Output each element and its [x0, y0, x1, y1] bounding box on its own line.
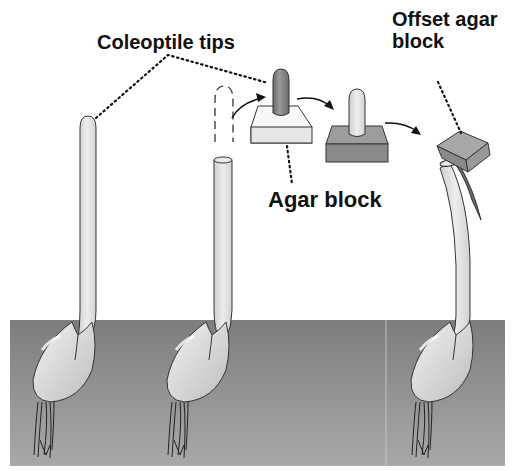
went-experiment-diagram: Coleoptile tips Agar block Offset agar b…: [0, 0, 515, 471]
label-agar-block: Agar block: [268, 188, 382, 212]
label-coleoptile-tips: Coleoptile tips: [97, 31, 235, 53]
label-offset-agar-block: Offset agar block: [392, 8, 498, 52]
diagram-canvas: [0, 0, 515, 471]
agar-block-treated: [326, 89, 388, 162]
